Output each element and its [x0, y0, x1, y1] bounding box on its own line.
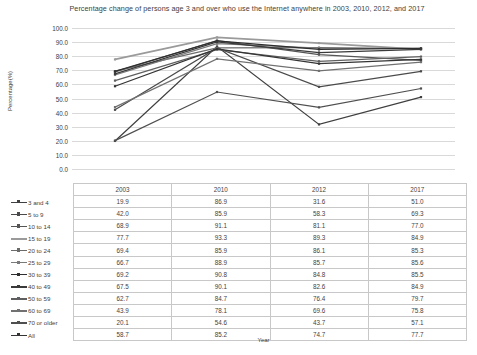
- series-lines: [72, 28, 455, 183]
- data-point-marker: [216, 36, 218, 38]
- legend-label: 50 to 59: [28, 293, 50, 304]
- table-column-header: 2017: [368, 184, 466, 196]
- table-row: 5 to 942.085.958.369.3: [10, 208, 467, 220]
- table-cell-value: 81.1: [270, 220, 368, 232]
- y-tick-label: 40.0: [32, 109, 68, 116]
- table-row: 40 to 4967.590.182.684.9: [10, 280, 467, 292]
- y-tick-label: 70.0: [32, 67, 68, 74]
- legend-item[interactable]: 10 to 14: [10, 220, 74, 232]
- table-cell-value: 51.0: [368, 196, 466, 208]
- data-point-marker: [318, 86, 320, 88]
- legend-item[interactable]: 5 to 9: [10, 208, 74, 220]
- legend-marker-icon: [11, 331, 27, 339]
- legend-marker-icon: [11, 283, 27, 291]
- table-cell-value: 66.7: [74, 256, 172, 268]
- legend-marker-icon: [11, 319, 27, 327]
- legend-item[interactable]: 3 and 4: [10, 196, 74, 208]
- series-line: [115, 88, 421, 140]
- legend-label: 40 to 49: [28, 281, 50, 292]
- legend-item[interactable]: 30 to 39: [10, 268, 74, 280]
- legend-item[interactable]: 15 to 19: [10, 232, 74, 244]
- table-row: 10 to 1468.991.181.177.0: [10, 220, 467, 232]
- table-cell-value: 62.7: [74, 292, 172, 304]
- table-cell-value: 84.9: [368, 232, 466, 244]
- table-cell-value: 77.0: [368, 220, 466, 232]
- table-cell-value: 88.9: [172, 256, 270, 268]
- table-cell-value: 77.7: [74, 232, 172, 244]
- table-column-header: 2012: [270, 184, 368, 196]
- legend-item[interactable]: 50 to 59: [10, 292, 74, 304]
- data-point-marker: [114, 73, 116, 75]
- y-tick-label: 90.0: [32, 39, 68, 46]
- table-row: 15 to 1977.793.389.384.9: [10, 232, 467, 244]
- table-cell-value: 19.9: [74, 196, 172, 208]
- table-cell-value: 85.7: [270, 256, 368, 268]
- data-point-marker: [114, 58, 116, 60]
- legend-label: 10 to 14: [28, 221, 50, 232]
- table-cell-value: 42.0: [74, 208, 172, 220]
- table-cell-value: 84.7: [172, 292, 270, 304]
- y-axis-title: Percentage(%): [7, 61, 13, 121]
- table-cell-value: 78.1: [172, 304, 270, 316]
- data-point-marker: [114, 79, 116, 81]
- legend-item[interactable]: 20 to 24: [10, 244, 74, 256]
- y-tick-label: 100.0: [32, 25, 68, 32]
- data-point-marker: [420, 56, 422, 58]
- table-row: 50 to 5962.784.776.479.7: [10, 292, 467, 304]
- legend-marker-icon: [11, 210, 27, 218]
- data-point-marker: [216, 41, 218, 43]
- plot-area: Percentage(%) 100.090.080.070.060.050.04…: [0, 28, 477, 183]
- legend-label: 20 to 24: [28, 245, 50, 256]
- table-cell-value: 69.3: [368, 208, 466, 220]
- legend-label: 5 to 9: [28, 209, 43, 220]
- data-point-marker: [420, 48, 422, 50]
- table-cell-value: 75.8: [368, 304, 466, 316]
- table-cell-value: 86.1: [270, 244, 368, 256]
- y-tick-label: 10.0: [32, 151, 68, 158]
- legend-item[interactable]: All: [10, 329, 74, 341]
- table-cell-value: 31.6: [270, 196, 368, 208]
- table-cell-value: 68.9: [74, 220, 172, 232]
- table-cell-value: 85.9: [172, 244, 270, 256]
- legend-label: 3 and 4: [28, 197, 49, 208]
- legend-marker-icon: [11, 234, 27, 242]
- y-tick-label: 50.0: [32, 95, 68, 102]
- data-point-marker: [216, 48, 218, 50]
- legend-item[interactable]: 70 or older: [10, 317, 74, 329]
- table-cell-value: 89.3: [270, 232, 368, 244]
- legend-label: 30 to 39: [28, 269, 50, 280]
- data-point-marker: [114, 85, 116, 87]
- table-cell-value: 69.6: [270, 304, 368, 316]
- data-point-marker: [420, 61, 422, 63]
- table-column-header: 2003: [74, 184, 172, 196]
- y-axis-ticks: 100.090.080.070.060.050.040.030.020.010.…: [22, 28, 68, 183]
- legend-item[interactable]: 60 to 69: [10, 304, 74, 316]
- table-row: 60 to 6943.978.169.675.8: [10, 304, 467, 316]
- chart-figure: Percentage change of persons age 3 and o…: [0, 0, 477, 355]
- legend-marker-icon: [11, 271, 27, 279]
- data-point-marker: [318, 106, 320, 108]
- legend-marker-icon: [11, 259, 27, 267]
- legend-marker-icon: [11, 295, 27, 303]
- table-cell-value: 84.9: [368, 280, 466, 292]
- legend-item[interactable]: 25 to 29: [10, 256, 74, 268]
- table-cell-value: 58.3: [270, 208, 368, 220]
- data-point-marker: [114, 109, 116, 111]
- data-point-marker: [420, 70, 422, 72]
- table-cell-value: 69.4: [74, 244, 172, 256]
- table-cell-value: 84.8: [270, 268, 368, 280]
- table-cell-value: 54.6: [172, 317, 270, 329]
- data-point-marker: [114, 70, 116, 72]
- data-point-marker: [318, 123, 320, 125]
- data-table: 2003201020122017 3 and 419.986.931.651.0…: [10, 183, 467, 341]
- data-point-marker: [318, 51, 320, 53]
- table-cell-value: 43.7: [270, 317, 368, 329]
- data-point-marker: [420, 87, 422, 89]
- table-cell-value: 69.2: [74, 268, 172, 280]
- table-cell-value: 43.9: [74, 304, 172, 316]
- x-axis-title: Year: [72, 337, 455, 343]
- legend-header-cell: [10, 184, 74, 196]
- legend-item[interactable]: 40 to 49: [10, 280, 74, 292]
- legend-label: All: [28, 330, 35, 341]
- legend-marker-icon: [11, 198, 27, 206]
